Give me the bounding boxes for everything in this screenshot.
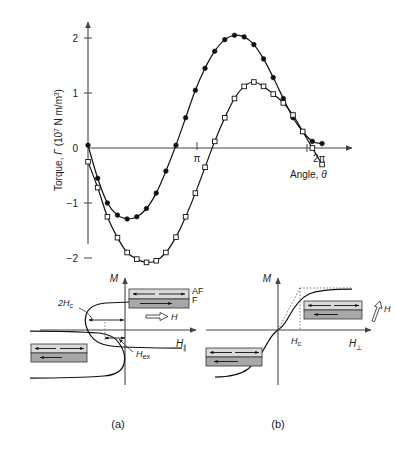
torque-point-filled	[125, 217, 130, 222]
torque-point-filled	[174, 143, 179, 148]
panel-a: M H∥ 2Hc Hex AF F	[30, 273, 204, 430]
torque-point-filled	[144, 206, 149, 211]
panel-a-2hc-label: 2Hc	[57, 298, 74, 309]
torque-point-open	[300, 129, 305, 134]
torque-point-open	[135, 257, 140, 262]
torque-point-open	[115, 235, 120, 240]
torque-point-filled	[193, 88, 198, 93]
panel-a-inset-field-arrow	[146, 313, 168, 321]
panel-b-inset-field-arrow	[372, 301, 382, 322]
torque-point-open	[174, 235, 179, 240]
torque-point-open	[271, 92, 276, 97]
torque-plot-panel: 2 1 0 −1 −2 π 2π Torque, Γ (107 N m/m3) …	[53, 22, 353, 265]
torque-point-filled	[212, 49, 217, 54]
torque-point-open	[125, 250, 130, 255]
panel-b-inset-right: H	[304, 301, 391, 322]
torque-point-filled	[135, 214, 140, 219]
torque-markers-open-squares	[86, 80, 325, 265]
torque-curve-open-squares	[88, 82, 322, 262]
torque-ytick-neg2: −2	[67, 253, 79, 264]
svg-text:Torque, Γ (107 N m/m3): Torque, Γ (107 N m/m3)	[53, 89, 65, 191]
torque-y-axis-label: Torque, Γ (107 N m/m3)	[53, 89, 65, 191]
panel-b-inset-left	[206, 348, 262, 366]
panel-a-inset-field-label: H	[171, 312, 178, 322]
torque-point-open	[232, 96, 237, 101]
torque-point-open	[164, 250, 169, 255]
panel-a-inset-f-label: F	[192, 295, 198, 305]
panel-a-caption: (a)	[111, 418, 124, 430]
torque-point-filled	[281, 96, 286, 101]
torque-point-filled	[242, 35, 247, 40]
panel-a-y-axis-label: M	[110, 273, 119, 284]
torque-point-filled	[310, 139, 315, 144]
torque-ytick-neg1: −1	[67, 198, 79, 209]
torque-point-open	[252, 80, 257, 85]
torque-ytick-0: 0	[72, 143, 78, 154]
panel-a-inset-right: AF F H	[129, 286, 204, 322]
torque-point-open	[212, 139, 217, 144]
torque-point-open	[261, 84, 266, 89]
torque-point-open	[105, 214, 110, 219]
panel-b-inset-field-label: H	[384, 304, 391, 314]
torque-point-filled	[271, 75, 276, 80]
torque-point-filled	[115, 213, 120, 218]
torque-point-open	[320, 162, 325, 167]
torque-point-open	[183, 214, 188, 219]
torque-point-filled	[222, 37, 227, 42]
torque-point-filled	[203, 66, 208, 71]
panel-b: M H⊥ Hc H	[206, 273, 391, 430]
panel-a-inset-left	[31, 344, 87, 362]
torque-point-open	[222, 115, 227, 120]
torque-point-filled	[252, 42, 257, 47]
figure-svg: 2 1 0 −1 −2 π 2π Torque, Γ (107 N m/m3) …	[0, 0, 395, 453]
panel-b-dotted-tangent	[278, 288, 300, 330]
torque-point-open	[203, 165, 208, 170]
torque-point-open	[144, 260, 149, 265]
panel-b-hc-label: Hc	[291, 336, 302, 347]
torque-xtick-pi: π	[194, 153, 201, 164]
torque-point-filled	[232, 33, 237, 38]
torque-ytick-2: 2	[72, 33, 78, 44]
torque-point-open	[193, 191, 198, 196]
torque-point-filled	[164, 169, 169, 174]
torque-x-axis-label: Angle, θ	[290, 169, 327, 180]
figure-container: 2 1 0 −1 −2 π 2π Torque, Γ (107 N m/m3) …	[0, 0, 395, 453]
torque-point-filled	[86, 143, 91, 148]
panel-b-y-axis-label: M	[263, 273, 272, 284]
panel-b-x-axis-label: H⊥	[349, 338, 362, 351]
torque-point-open	[95, 185, 100, 190]
torque-point-open	[242, 84, 247, 89]
torque-point-open	[310, 146, 315, 151]
torque-point-open	[281, 101, 286, 106]
panel-b-caption: (b)	[271, 418, 284, 430]
torque-point-filled	[320, 141, 325, 146]
torque-point-filled	[95, 176, 100, 181]
torque-markers-filled-circles	[86, 33, 325, 221]
torque-ytick-1: 1	[72, 88, 78, 99]
torque-curve-filled-circles	[88, 35, 322, 219]
torque-point-open	[154, 258, 159, 263]
torque-point-filled	[183, 115, 188, 120]
torque-point-open	[86, 159, 91, 164]
torque-point-open	[291, 113, 296, 118]
torque-point-filled	[261, 57, 266, 62]
panel-a-hex-label: Hex	[136, 349, 150, 360]
torque-point-filled	[154, 191, 159, 196]
panel-a-x-axis-label: H∥	[176, 338, 187, 352]
torque-point-filled	[105, 201, 110, 206]
